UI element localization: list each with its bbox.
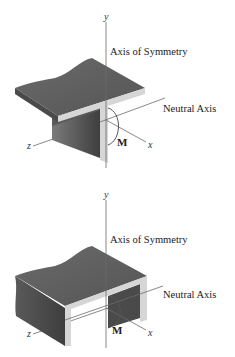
- flange-top-surface: [15, 58, 145, 116]
- t-beam-figure: y Axis of Symmetry Neutral Axis z x M: [0, 0, 235, 178]
- t-beam-drawing: [0, 0, 235, 178]
- y-axis-label: y: [104, 12, 108, 22]
- z-axis-label: z: [27, 141, 31, 151]
- channel-beam-figure: y Axis of Symmetry Neutral Axis z x M: [0, 178, 235, 357]
- z-axis-label: z: [27, 329, 31, 339]
- axis-of-symmetry-label: Axis of Symmetry: [110, 235, 188, 246]
- moment-label: M: [117, 137, 127, 148]
- y-axis-label: y: [104, 190, 108, 200]
- x-axis-label: x: [148, 328, 152, 338]
- moment-label: M: [112, 325, 122, 336]
- web-cross-section: [100, 104, 108, 163]
- neutral-axis-label: Neutral Axis: [163, 104, 216, 115]
- x-axis-label: x: [148, 140, 152, 150]
- axis-of-symmetry-label: Axis of Symmetry: [110, 47, 188, 58]
- neutral-axis-label: Neutral Axis: [163, 290, 216, 301]
